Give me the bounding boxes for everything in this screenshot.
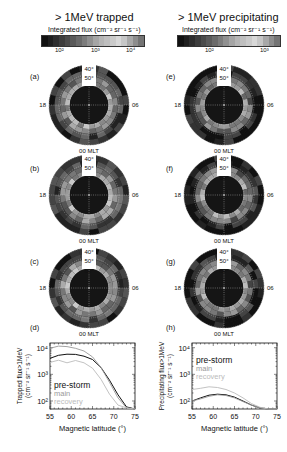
x-tick-label: 70 — [252, 413, 260, 420]
latitude-label: 40° — [84, 66, 94, 72]
x-axis-label: Magnetic latitude (°) — [201, 424, 268, 433]
x-tick-label: 70 — [110, 413, 118, 420]
y-tick-label: 10³ — [179, 370, 190, 379]
polar-plot: 40°50°60°180600 MLT — [174, 64, 274, 154]
latitude-label: 40° — [84, 249, 94, 255]
x-tick-label: 55 — [46, 413, 54, 420]
y-tick-label: 10⁴ — [36, 344, 48, 353]
mlt-06-label: 06 — [267, 285, 274, 291]
y-axis-label: Precipitating flux>1MeV(cm⁻² sr⁻¹ s⁻¹) — [158, 341, 174, 410]
x-tick-label: 60 — [67, 413, 75, 420]
polar-plots: 40°50°60°180600 MLT40°50°60°180600 MLT40… — [0, 0, 287, 340]
latitude-label: 40° — [84, 156, 94, 162]
x-tick-label: 55 — [188, 413, 196, 420]
x-tick-label: 65 — [231, 413, 239, 420]
latitude-label: 50° — [219, 75, 229, 81]
mlt-06-label: 06 — [267, 192, 274, 198]
latitude-label: 50° — [84, 258, 94, 264]
x-tick-label: 75 — [273, 413, 281, 420]
mlt-00-label: 00 MLT — [79, 148, 99, 154]
mlt-18-label: 18 — [39, 102, 46, 108]
x-tick-label: 60 — [209, 413, 217, 420]
latitude-label: 60° — [219, 175, 229, 181]
latitude-label: 60° — [219, 85, 229, 91]
mlt-18-label: 18 — [174, 102, 181, 108]
mlt-00-label: 00 MLT — [214, 148, 234, 154]
mlt-18-label: 18 — [39, 192, 46, 198]
latitude-label: 60° — [84, 85, 94, 91]
y-tick-label: 10⁴ — [178, 344, 190, 353]
y-tick-label: 10³ — [37, 370, 48, 379]
mlt-06-label: 06 — [267, 102, 274, 108]
y-tick-label: 10² — [179, 397, 190, 406]
legend-entry: recovery — [54, 397, 83, 406]
y-tick-label: 10² — [37, 397, 48, 406]
polar-plot: 40°50°60°180600 MLT — [39, 247, 139, 337]
mlt-18-label: 18 — [39, 285, 46, 291]
mlt-06-label: 06 — [132, 102, 139, 108]
latitude-label: 60° — [84, 175, 94, 181]
x-tick-label: 75 — [131, 413, 139, 420]
latitude-label: 40° — [219, 156, 229, 162]
mlt-00-label: 00 MLT — [79, 238, 99, 244]
polar-plot: 40°50°60°180600 MLT — [174, 154, 274, 244]
latitude-label: 60° — [219, 268, 229, 274]
polar-plot: 40°50°60°180600 MLT — [39, 154, 139, 244]
mlt-06-label: 06 — [132, 192, 139, 198]
latitude-label: 50° — [219, 258, 229, 264]
trapped-flux-chart: 556065707510²10³10⁴Magnetic latitude (°)… — [0, 330, 145, 452]
latitude-label: 40° — [219, 66, 229, 72]
latitude-label: 50° — [84, 165, 94, 171]
x-axis-label: Magnetic latitude (°) — [59, 424, 126, 433]
legend-entry: recovery — [196, 372, 225, 381]
y-axis-label: Trapped flux>1MeV(cm⁻² sr⁻¹ s⁻¹) — [16, 347, 32, 404]
mlt-18-label: 18 — [174, 285, 181, 291]
precipitating-flux-chart: 556065707510²10³10⁴Magnetic latitude (°)… — [142, 330, 287, 452]
polar-plot: 40°50°60°180600 MLT — [174, 247, 274, 337]
latitude-label: 60° — [84, 268, 94, 274]
latitude-label: 50° — [84, 75, 94, 81]
mlt-06-label: 06 — [132, 285, 139, 291]
mlt-18-label: 18 — [174, 192, 181, 198]
latitude-label: 40° — [219, 249, 229, 255]
polar-plot: 40°50°60°180600 MLT — [39, 64, 139, 154]
x-tick-label: 65 — [89, 413, 97, 420]
mlt-00-label: 00 MLT — [214, 238, 234, 244]
latitude-label: 50° — [219, 165, 229, 171]
